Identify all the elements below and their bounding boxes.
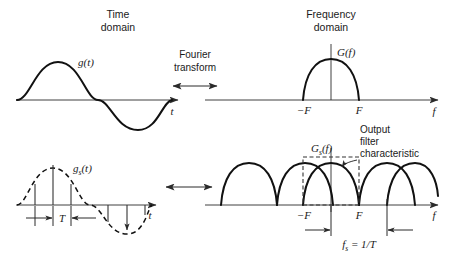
freq-tick-neg-F: −F <box>297 104 311 116</box>
diagram-canvas: Time domain Frequency domain g(t) t Four… <box>0 0 452 258</box>
sampled-time-axis-label: t <box>148 209 152 221</box>
fourier-transform-diagram: Time domain Frequency domain g(t) t Four… <box>0 0 452 258</box>
filter-label: filter <box>360 136 380 147</box>
freq-tick-pos-F: F <box>355 104 363 116</box>
transform-label: transform <box>174 62 216 73</box>
panel-freq-sampled: Gs(f) −F F f Output filter characteristi… <box>205 124 438 253</box>
fourier-transform-annotation: Fourier transform <box>173 49 217 86</box>
sampled-sine-envelope <box>17 168 152 234</box>
signal-label-Gsf: Gs(f) <box>311 142 333 157</box>
spectrum-replica <box>387 163 438 205</box>
time-axis-label: t <box>170 105 174 117</box>
sampled-freq-tick-pos-F: F <box>355 209 363 221</box>
signal-label-gt: g(t) <box>78 56 94 69</box>
signal-label-gst: gs(t) <box>73 162 92 177</box>
fourier-label: Fourier <box>179 49 211 60</box>
time-domain-header-line1: Time <box>107 8 130 20</box>
sampling-rate-dimension: fs = 1/T <box>305 199 413 253</box>
period-dimension: T <box>26 206 96 226</box>
panel-time-continuous: g(t) t <box>16 56 178 130</box>
sampling-rate-label: fs = 1/T <box>342 238 376 253</box>
output-filter-annotation: Output filter characteristic <box>342 124 419 167</box>
spectrum-replica <box>221 163 277 205</box>
period-label: T <box>59 212 66 224</box>
frequency-domain-header-line2: domain <box>314 21 349 33</box>
sine-wave-curve <box>17 62 172 130</box>
time-domain-header-line2: domain <box>101 21 136 33</box>
panel-freq-continuous: G(f) −F F f <box>205 44 438 117</box>
output-label: Output <box>360 124 390 135</box>
sampled-frequency-axis-label: f <box>432 209 437 221</box>
sampled-freq-tick-neg-F: −F <box>297 209 311 221</box>
annotation-leader-line <box>342 160 357 167</box>
spectrum-replica <box>277 163 333 205</box>
characteristic-label: characteristic <box>360 148 419 159</box>
frequency-domain-header-line1: Frequency <box>306 8 356 20</box>
panel-time-sampled: gs(t) t T <box>16 162 156 234</box>
frequency-axis-label: f <box>432 105 437 117</box>
signal-label-Gf: G(f) <box>337 46 356 59</box>
